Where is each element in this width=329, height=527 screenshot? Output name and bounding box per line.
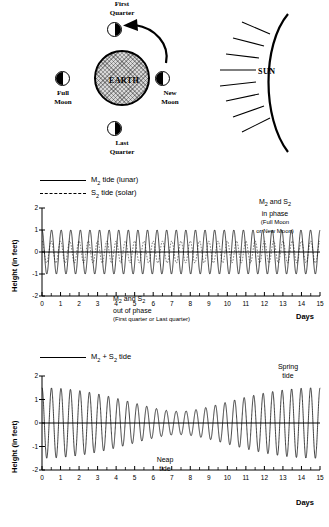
annotation-in-phase: M2 and S2 in phase (Full Moon or New Moo… — [225, 197, 325, 236]
annotation-spring-tide-line2: tide — [252, 371, 324, 380]
y-tick-label: 1 — [26, 226, 38, 233]
moon-full-caption: Full Moon — [33, 89, 93, 107]
x-tick-label: 5 — [129, 300, 141, 307]
x-tick-label: 7 — [166, 300, 178, 307]
x-tick-label: 14 — [295, 300, 307, 307]
annotation-spring-tide: Spring tide — [252, 362, 324, 380]
moon-shadow — [115, 122, 122, 135]
y-tick-label: -1 — [26, 443, 38, 450]
x-tick-label: 5 — [129, 474, 141, 481]
legend-label-m2: M2 tide (lunar) — [91, 175, 138, 186]
moon-last-quarter-caption: Last Quarter — [92, 139, 152, 157]
figure-root: EARTH First Quarter Full Moon New Moon L… — [0, 0, 329, 527]
x-tick-label: 10 — [221, 300, 233, 307]
annotation-spring-tide-line1: Spring — [252, 362, 324, 371]
annotation-neap-tide: Neap tide — [135, 455, 195, 473]
x-tick-label: 13 — [277, 300, 289, 307]
moon-full-caption-line2: Moon — [33, 98, 93, 107]
moon-first-quarter-caption-line2: Quarter — [92, 9, 152, 18]
x-tick-label: 1 — [55, 300, 67, 307]
annotation-out-of-phase-line3: (First quarter or Last quarter) — [113, 315, 233, 324]
chart-top-xlabel: Days — [296, 312, 314, 321]
x-tick-label: 15 — [314, 300, 326, 307]
x-tick-label: 6 — [147, 300, 159, 307]
x-tick-label: 11 — [240, 474, 252, 481]
x-tick-label: 2 — [73, 300, 85, 307]
annotation-in-phase-line2: in phase — [225, 209, 325, 218]
moon-full — [55, 71, 70, 86]
earth-moon-sun-diagram: EARTH First Quarter Full Moon New Moon L… — [0, 0, 329, 172]
chart-bottom-xlabel: Days — [296, 498, 314, 507]
y-tick-label: 0 — [26, 248, 38, 255]
x-tick-label: 7 — [166, 474, 178, 481]
x-tick-label: 14 — [295, 474, 307, 481]
x-tick-label: 11 — [240, 300, 252, 307]
x-tick-label: 3 — [92, 300, 104, 307]
x-tick-label: 10 — [221, 474, 233, 481]
annotation-in-phase-line1: M2 and S2 — [225, 197, 325, 209]
sun-rays — [220, 22, 270, 132]
annotation-in-phase-line4: or New Moon) — [225, 227, 325, 236]
moon-first-quarter-caption: First Quarter — [92, 0, 152, 18]
y-tick-label: -1 — [26, 270, 38, 277]
x-tick-label: 9 — [203, 474, 215, 481]
moon-shadow — [156, 72, 163, 85]
x-tick-label: 1 — [55, 474, 67, 481]
chart-m2-s2-components: M2 tide (lunar) S2 tide (solar) Height (… — [0, 172, 329, 344]
moon-full-caption-line1: Full — [33, 89, 93, 98]
annotation-out-of-phase-line2: out of phase — [113, 306, 233, 315]
moon-last-quarter — [107, 121, 122, 136]
legend-label-sum: M2 + S2 tide — [91, 352, 131, 363]
y-tick-label: 2 — [26, 372, 38, 379]
orbit-arrow-head — [123, 19, 138, 31]
x-tick-label: 0 — [36, 474, 48, 481]
moon-new-caption: New Moon — [140, 89, 200, 107]
moon-new-caption-line2: Moon — [140, 98, 200, 107]
x-tick-label: 0 — [36, 300, 48, 307]
x-tick-label: 12 — [258, 300, 270, 307]
legend-item-s2: S2 tide (solar) — [40, 188, 137, 199]
moon-first-quarter — [107, 22, 122, 37]
legend-item-m2: M2 tide (lunar) — [40, 175, 138, 186]
x-tick-label: 4 — [110, 300, 122, 307]
moon-first-quarter-caption-line1: First — [92, 0, 152, 9]
annotation-neap-tide-line2: tide — [135, 464, 195, 473]
annotation-neap-tide-line1: Neap — [135, 455, 195, 464]
chart-bottom-ylabel: Height (in feet) — [10, 421, 19, 474]
x-tick-label: 2 — [73, 474, 85, 481]
y-tick-label: 0 — [26, 419, 38, 426]
moon-new-caption-line1: New — [140, 89, 200, 98]
sun-limb-arc — [269, 14, 289, 152]
moon-shadow — [115, 23, 122, 36]
y-tick-label: -2 — [26, 292, 38, 299]
x-tick-label: 15 — [314, 474, 326, 481]
x-tick-label: 9 — [203, 300, 215, 307]
legend-swatch-solid — [40, 357, 86, 358]
x-tick-label: 4 — [110, 474, 122, 481]
legend-swatch-solid — [40, 180, 86, 181]
chart-m2-plus-s2-sum: M2 + S2 tide Height (in feet) Days Sprin… — [0, 348, 329, 527]
x-tick-label: 12 — [258, 474, 270, 481]
sun-label: SUN — [258, 67, 276, 76]
x-tick-label: 3 — [92, 474, 104, 481]
moon-last-quarter-caption-line2: Quarter — [92, 148, 152, 157]
y-tick-label: 1 — [26, 396, 38, 403]
x-tick-label: 13 — [277, 474, 289, 481]
x-tick-label: 8 — [184, 474, 196, 481]
x-tick-label: 8 — [184, 300, 196, 307]
x-tick-label: 6 — [147, 474, 159, 481]
legend-swatch-dashed — [40, 193, 86, 194]
y-tick-label: 2 — [26, 204, 38, 211]
y-tick-label: -2 — [26, 466, 38, 473]
legend-item-sum: M2 + S2 tide — [40, 352, 131, 363]
chart-top-ylabel: Height (in feet) — [10, 240, 19, 293]
annotation-in-phase-line3: (Full Moon — [225, 218, 325, 227]
moon-new — [155, 71, 170, 86]
moon-last-quarter-caption-line1: Last — [92, 139, 152, 148]
legend-label-s2: S2 tide (solar) — [91, 188, 137, 199]
annotation-out-of-phase: M2 and S2 out of phase (First quarter or… — [113, 294, 233, 324]
diagram-vectors — [0, 0, 329, 172]
moon-shadow — [56, 72, 63, 85]
